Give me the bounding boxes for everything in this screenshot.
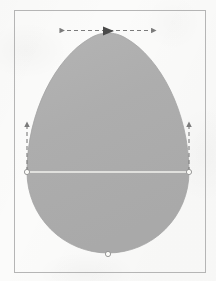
vertex-marker-bottom: [105, 251, 110, 256]
vertex-marker-right: [186, 169, 191, 174]
figure-container: Egg oval geometric construction: [0, 0, 216, 281]
egg-construction-diagram: [0, 0, 216, 281]
egg-oval: [27, 33, 189, 253]
vertex-marker-left: [24, 169, 29, 174]
